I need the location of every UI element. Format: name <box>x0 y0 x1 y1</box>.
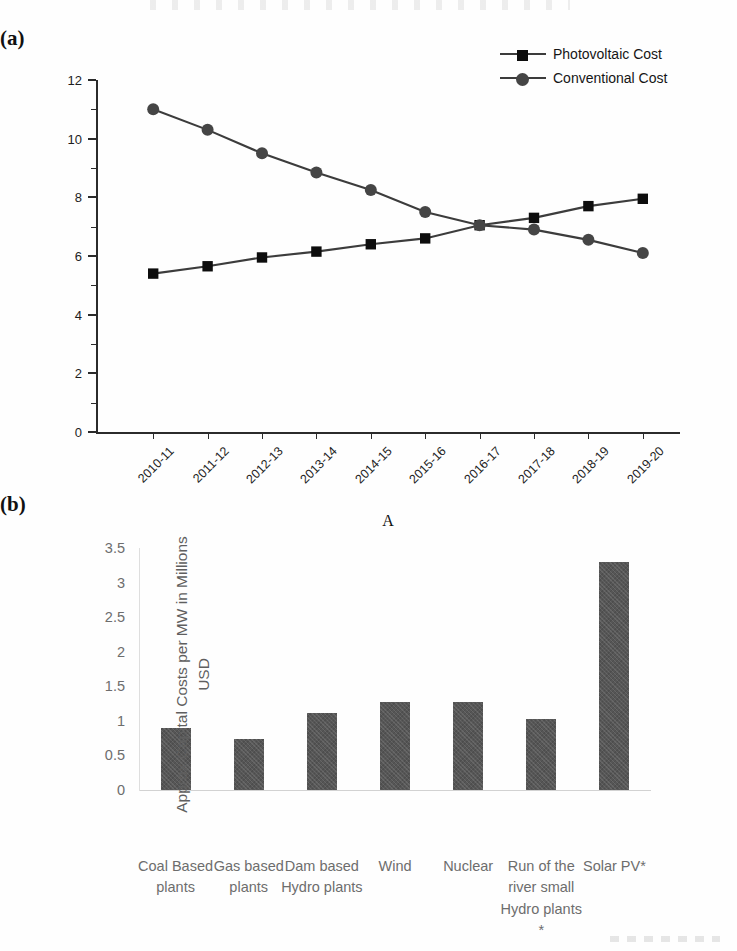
chart-a-x-tick-label: 2014-15 <box>352 444 394 486</box>
chart-b-y-tick-label: 2.5 <box>105 609 125 625</box>
legend-label-conventional: Conventional Cost <box>553 70 667 86</box>
chart-b-bar <box>599 562 629 790</box>
chart-a-y-tick-label: 8 <box>75 190 82 205</box>
chart-a-plot-area: 024681012 2010-112011-122012-132013-1420… <box>96 80 680 434</box>
chart-a-data-point <box>365 184 377 196</box>
chart-a-data-point <box>310 166 322 178</box>
chart-b-y-tick-label: 3 <box>117 575 125 591</box>
chart-a-data-point <box>256 147 268 159</box>
chart-a-x-tick-label: 2011-12 <box>190 444 232 486</box>
chart-b-plot-area: 00.511.522.533.5 Coal Based plantsGas ba… <box>139 548 651 791</box>
chart-b-y-tick-label: 1 <box>117 713 125 729</box>
chart-a-data-point <box>148 268 158 278</box>
chart-a-data-point <box>420 233 430 243</box>
scan-artifact-bottom <box>610 936 720 942</box>
chart-b-y-axis-title: Approx Capital Costs per MW in Millions … <box>171 524 216 824</box>
chart-a-data-point <box>583 201 593 211</box>
chart-a-y-tick <box>88 314 96 316</box>
chart-b-y-tick-label: 1.5 <box>105 678 125 694</box>
chart-a-x-tick-label: 2019-20 <box>624 444 666 486</box>
chart-b-y-tick-label: 2 <box>117 644 125 660</box>
chart-a-y-tick <box>88 372 96 374</box>
chart-a-y-tick-label: 2 <box>75 366 82 381</box>
chart-a-y-tick-label: 0 <box>75 425 82 440</box>
chart-a-x-tick-label: 2017-18 <box>516 444 558 486</box>
chart-a-y-tick-label: 10 <box>68 131 82 146</box>
chart-a-data-point <box>202 261 212 271</box>
chart-a-data-point <box>202 124 214 136</box>
chart-a-series-line <box>153 109 643 253</box>
circle-marker-icon <box>500 71 546 85</box>
chart-panel-a: (a) 024681012 2010-112011-122012-132013-… <box>0 26 737 496</box>
chart-a-y-tick <box>88 431 96 433</box>
chart-a-y-tick <box>88 196 96 198</box>
chart-a-legend: Photovoltaic Cost Conventional Cost <box>500 42 667 90</box>
chart-a-x-tick-label: 2018-19 <box>570 444 612 486</box>
chart-b-y-axis <box>139 548 140 791</box>
chart-b-baseline <box>139 790 651 791</box>
chart-a-data-point <box>419 206 431 218</box>
chart-a-data-point <box>529 213 539 223</box>
chart-b-bar <box>307 713 337 790</box>
chart-a-data-point <box>366 239 376 249</box>
chart-b-bar <box>453 702 483 791</box>
scan-artifact-top <box>150 0 570 10</box>
square-marker-icon <box>500 47 546 61</box>
chart-b-category-label: Solar PV* <box>572 856 657 877</box>
chart-a-y-tick-label: 4 <box>75 307 82 322</box>
chart-b-bar <box>234 739 264 790</box>
chart-a-series-layer <box>96 80 680 434</box>
chart-a-data-point <box>582 234 594 246</box>
chart-a-data-point <box>528 224 540 236</box>
chart-a-y-tick-label: 6 <box>75 249 82 264</box>
chart-a-x-tick-label: 2012-13 <box>244 444 286 486</box>
chart-b-y-tick-label: 3.5 <box>105 540 125 556</box>
chart-a-y-tick <box>88 79 96 81</box>
chart-a-x-tick-label: 2010-11 <box>135 444 177 486</box>
chart-a-y-tick-label: 12 <box>68 73 82 88</box>
chart-a-data-point <box>257 252 267 262</box>
legend-item-photovoltaic: Photovoltaic Cost <box>500 42 667 66</box>
chart-a-x-tick-label: 2015-16 <box>407 444 449 486</box>
chart-panel-b: (b) 00.511.522.533.5 Coal Based plantsGa… <box>0 492 737 951</box>
chart-b-bar <box>526 719 556 790</box>
chart-a-data-point <box>147 103 159 115</box>
panel-b-letter: (b) <box>0 492 737 517</box>
chart-b-y-tick-label: 0 <box>117 782 125 798</box>
chart-a-data-point <box>638 194 648 204</box>
legend-item-conventional: Conventional Cost <box>500 66 667 90</box>
chart-a-data-point <box>637 247 649 259</box>
chart-b-y-tick-label: 0.5 <box>105 747 125 763</box>
chart-a-data-point <box>474 219 486 231</box>
chart-a-y-tick <box>88 138 96 140</box>
chart-b-bar <box>380 702 410 791</box>
chart-a-x-tick-label: 2013-14 <box>298 444 340 486</box>
chart-a-y-tick <box>88 255 96 257</box>
chart-a-data-point <box>311 246 321 256</box>
chart-a-x-tick-label: 2016-17 <box>461 444 503 486</box>
legend-label-photovoltaic: Photovoltaic Cost <box>553 46 662 62</box>
